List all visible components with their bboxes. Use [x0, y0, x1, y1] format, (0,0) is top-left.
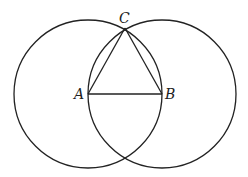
- segment-BC: [125, 28, 162, 94]
- diagram-canvas: A B C: [0, 0, 248, 177]
- label-B: B: [164, 86, 175, 102]
- segment-AC: [88, 28, 125, 94]
- label-A: A: [72, 86, 84, 102]
- label-C: C: [119, 10, 130, 26]
